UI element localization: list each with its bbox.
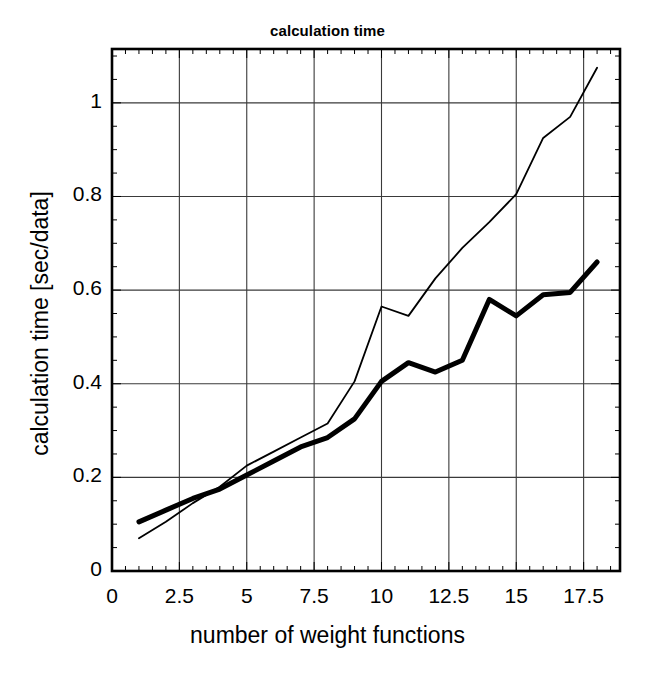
series-line-thin-curve	[139, 68, 597, 538]
plot-frame	[112, 49, 620, 571]
y-tick-label: 0	[42, 557, 102, 581]
y-tick-label: 0.4	[42, 370, 102, 394]
series-line-thick-curve	[139, 262, 597, 522]
gridlines	[112, 49, 620, 571]
chart-figure: calculation time calculation time [sec/d…	[0, 0, 655, 677]
axis-ticks	[112, 49, 620, 571]
chart-title: calculation time	[0, 22, 655, 39]
x-axis-label: number of weight functions	[0, 622, 655, 649]
y-tick-label: 0.6	[42, 276, 102, 300]
y-tick-label: 0.2	[42, 463, 102, 487]
x-tick-label: 17.5	[544, 584, 624, 608]
y-tick-label: 0.8	[42, 182, 102, 206]
y-tick-label: 1	[42, 89, 102, 113]
